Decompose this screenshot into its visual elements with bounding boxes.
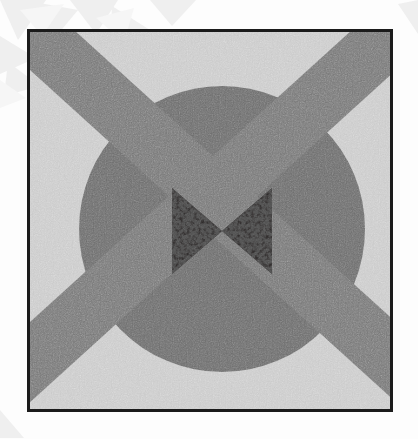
bowtie-motif xyxy=(30,32,390,409)
artwork-plate xyxy=(30,32,390,409)
picture-frame xyxy=(27,29,393,412)
artwork-canvas xyxy=(0,0,418,439)
